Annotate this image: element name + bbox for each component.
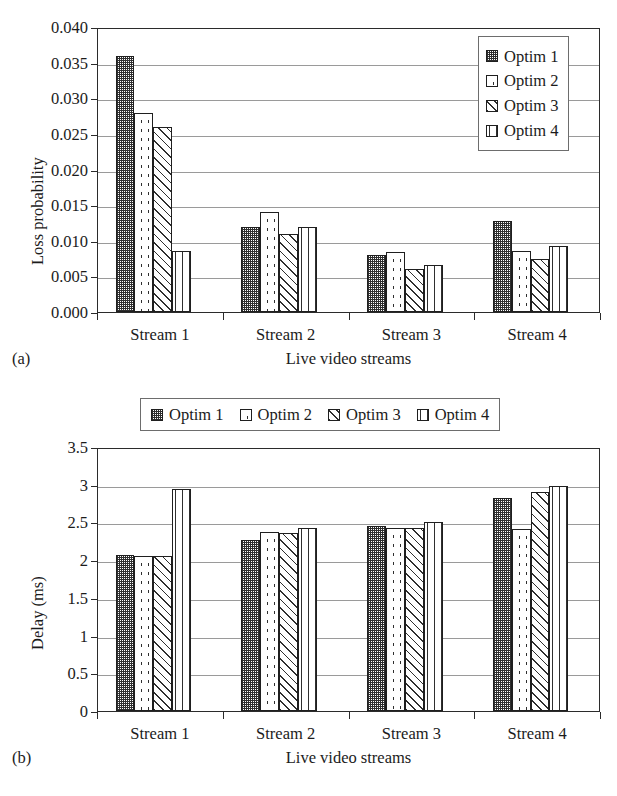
x-axis-tick-label: Stream 1 bbox=[97, 724, 223, 744]
legend-label: Optim 4 bbox=[435, 403, 490, 426]
x-axis-tick-label: Stream 2 bbox=[223, 724, 349, 744]
legend-swatch-icon bbox=[240, 409, 252, 421]
bar bbox=[116, 555, 135, 711]
legend-item: Optim 2 bbox=[240, 403, 313, 426]
bar bbox=[279, 533, 298, 711]
x-axis-tick-label: Stream 3 bbox=[349, 724, 475, 744]
y-axis-tick-label: 3.5 bbox=[67, 440, 88, 457]
plot-area bbox=[97, 448, 600, 712]
x-axis-label: Live video streams bbox=[97, 748, 600, 768]
x-axis-tick-mark bbox=[223, 712, 224, 719]
x-axis-tick-mark bbox=[600, 712, 601, 719]
x-axis-tick-mark bbox=[474, 712, 475, 719]
bar bbox=[241, 540, 260, 711]
y-axis-tick-label: 1 bbox=[80, 628, 88, 645]
y-axis-tick-mark bbox=[91, 637, 98, 638]
y-axis-tick-mark bbox=[91, 486, 98, 487]
legend-item: Optim 1 bbox=[151, 403, 224, 426]
legend: Optim 1Optim 2Optim 3Optim 4 bbox=[140, 398, 500, 431]
x-axis-tick-label: Stream 4 bbox=[474, 724, 600, 744]
bar bbox=[298, 528, 317, 711]
y-axis-tick-mark bbox=[91, 599, 98, 600]
bar bbox=[134, 556, 153, 711]
x-axis-tick-mark bbox=[97, 712, 98, 719]
bar bbox=[153, 556, 172, 711]
y-axis-tick-label: 0 bbox=[80, 704, 88, 721]
y-axis-tick-mark bbox=[91, 561, 98, 562]
y-axis-tick-label: 2.5 bbox=[67, 515, 88, 532]
bar bbox=[549, 486, 568, 711]
legend-label: Optim 3 bbox=[346, 403, 401, 426]
bar bbox=[424, 522, 443, 711]
chart-delay: 00.511.522.533.5Stream 1Stream 2Stream 3… bbox=[0, 0, 617, 796]
y-axis-label: Delay (ms) bbox=[28, 576, 48, 650]
y-axis-tick-label: 2 bbox=[80, 553, 88, 570]
bar bbox=[493, 498, 512, 711]
x-axis-tick-mark bbox=[349, 712, 350, 719]
legend-item: Optim 4 bbox=[417, 403, 490, 426]
y-axis-tick-label: 0.5 bbox=[67, 666, 88, 683]
y-axis-tick-mark bbox=[91, 674, 98, 675]
bar bbox=[172, 489, 191, 712]
legend-swatch-icon bbox=[151, 409, 163, 421]
y-axis-tick-label: 1.5 bbox=[67, 591, 88, 608]
legend-label: Optim 1 bbox=[169, 403, 224, 426]
bar bbox=[405, 528, 424, 711]
y-axis-tick-mark bbox=[91, 448, 98, 449]
bar bbox=[260, 532, 279, 711]
legend-swatch-icon bbox=[417, 409, 429, 421]
panel-tag: (b) bbox=[12, 748, 31, 768]
legend-item: Optim 3 bbox=[328, 403, 401, 426]
bar bbox=[531, 492, 550, 711]
legend-swatch-icon bbox=[328, 409, 340, 421]
bar bbox=[367, 526, 386, 711]
y-axis-tick-mark bbox=[91, 523, 98, 524]
legend-label: Optim 2 bbox=[258, 403, 313, 426]
bar bbox=[512, 529, 531, 711]
figure-two-bar-charts: 0.0000.0050.0100.0150.0200.0250.0300.035… bbox=[0, 0, 617, 796]
bar bbox=[386, 528, 405, 711]
y-axis-tick-label: 3 bbox=[80, 477, 88, 494]
